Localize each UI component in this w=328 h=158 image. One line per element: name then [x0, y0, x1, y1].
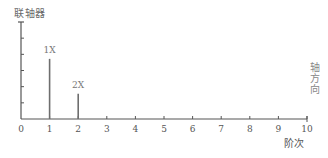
bar-label: 1X — [44, 45, 56, 55]
x-axis-label: 阶次 — [284, 135, 304, 150]
x-tick-label: 10 — [301, 124, 312, 134]
bar-label: 2X — [72, 80, 84, 90]
x-tick-label: 3 — [104, 124, 110, 134]
x-tick-label: 4 — [133, 124, 139, 134]
x-tick-label: 1 — [47, 124, 53, 134]
x-tick-label: 5 — [161, 124, 167, 134]
x-tick-label: 8 — [247, 124, 253, 134]
plot-area — [0, 0, 328, 158]
x-tick-label: 6 — [190, 124, 196, 134]
x-tick-label: 9 — [276, 124, 282, 134]
x-tick-label: 2 — [75, 124, 81, 134]
x-tick-label: 0 — [18, 124, 24, 134]
x-tick-label: 7 — [218, 124, 224, 134]
side-axis-label: 轴方向 — [306, 62, 321, 95]
y-axis-label: 联轴器 — [14, 5, 46, 20]
